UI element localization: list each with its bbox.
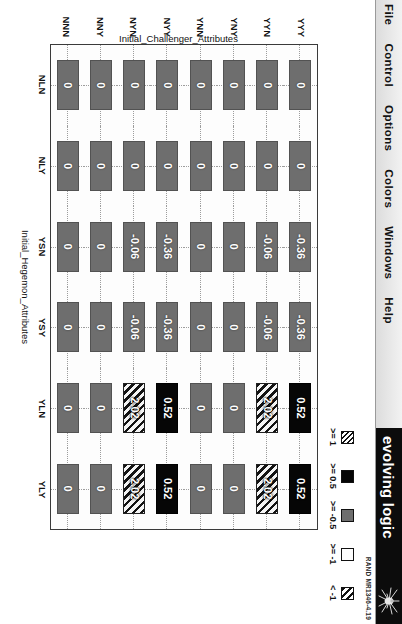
heatmap-cell[interactable]: -0.06	[118, 287, 151, 368]
heatmap-cell[interactable]: 0	[217, 45, 250, 126]
heatmap-cell-value: 0	[295, 163, 306, 169]
heatmap-cell[interactable]: 2.02	[251, 368, 284, 449]
menu-item-file[interactable]: File	[383, 0, 395, 34]
heatmap-cell[interactable]: 0	[84, 126, 117, 207]
heatmap-cell[interactable]: 2.02	[118, 448, 151, 529]
heatmap-cell[interactable]: 0	[217, 448, 250, 529]
heatmap-cell-box: 0	[57, 302, 79, 352]
heatmap-cell[interactable]: 0	[217, 287, 250, 368]
heatmap-cell[interactable]: 2.02	[118, 368, 151, 449]
heatmap-cell[interactable]: 0	[217, 368, 250, 449]
heatmap-cell-box: 0	[223, 383, 245, 433]
heatmap-cell-box: 0	[223, 141, 245, 191]
heatmap-cell-value: 0	[195, 486, 206, 492]
heatmap-plot-area[interactable]: 00-0.36-0.360.520.5200-0.06-0.062.022.02…	[50, 44, 318, 530]
heatmap-cell-box: 0	[190, 222, 212, 272]
heatmap-cell-box: 0	[90, 383, 112, 433]
heatmap-cell[interactable]: 0	[251, 126, 284, 207]
heatmap-cell[interactable]: -0.36	[284, 206, 317, 287]
heatmap-cell[interactable]: 0	[284, 126, 317, 207]
heatmap-cell-value: 0	[62, 163, 73, 169]
heatmap-cell[interactable]: 0	[84, 206, 117, 287]
heatmap-cell[interactable]: 0	[217, 126, 250, 207]
heatmap-cell[interactable]: 0	[151, 45, 184, 126]
heatmap-cell[interactable]: -0.36	[151, 206, 184, 287]
heatmap-cell-box: 2.02	[256, 383, 278, 433]
heatmap-cell[interactable]: 0	[51, 206, 84, 287]
screenshot-frame: File Control Options Colors Windows Help…	[0, 0, 402, 624]
menu-item-help[interactable]: Help	[383, 288, 395, 333]
application-window: File Control Options Colors Windows Help…	[0, 0, 402, 624]
heatmap-cell-value: 0	[228, 82, 239, 88]
heatmap-cell[interactable]: -0.06	[251, 287, 284, 368]
heatmap-cell-value: 0	[228, 324, 239, 330]
spider-logo-icon	[378, 586, 400, 616]
heatmap-cell[interactable]: 2.02	[251, 448, 284, 529]
heatmap-cell-box: -0.06	[256, 302, 278, 352]
heatmap-cell[interactable]: 0	[51, 368, 84, 449]
heatmap-cell[interactable]: 0	[217, 206, 250, 287]
heatmap-cell-box: 0	[57, 222, 79, 272]
heatmap-cell-box: -0.06	[256, 222, 278, 272]
heatmap-cell[interactable]: -0.36	[284, 287, 317, 368]
heatmap-cell-box: 0	[90, 60, 112, 110]
heatmap-cell-value: -0.36	[295, 234, 306, 259]
heatmap-cell[interactable]: 0	[84, 287, 117, 368]
menu-item-windows[interactable]: Windows	[383, 217, 395, 288]
x-axis-tick-label: YSN	[32, 206, 48, 287]
heatmap-cell-box: 0	[190, 302, 212, 352]
menu-item-options[interactable]: Options	[383, 96, 395, 160]
heatmap-cell-box: 0.52	[156, 464, 178, 514]
heatmap-cell[interactable]: 0	[284, 45, 317, 126]
heatmap-cell-value: 2.02	[262, 478, 273, 499]
menu-item-colors[interactable]: Colors	[383, 160, 395, 217]
heatmap-cell[interactable]: 0	[184, 287, 217, 368]
menu-item-control[interactable]: Control	[383, 34, 395, 96]
heatmap-cell-value: -0.06	[129, 234, 140, 259]
heatmap-cell[interactable]: 0	[151, 126, 184, 207]
legend-label: >= 1	[328, 428, 338, 446]
heatmap-cell[interactable]: 0	[184, 45, 217, 126]
heatmap-cell-box: 2.02	[123, 383, 145, 433]
heatmap-cell[interactable]: 0	[118, 126, 151, 207]
heatmap-cell-value: 0	[62, 244, 73, 250]
heatmap-cell-box: 0	[90, 141, 112, 191]
heatmap-cell-value: 0	[162, 82, 173, 88]
x-axis-tick-label: YLN	[32, 368, 48, 449]
heatmap-cell[interactable]: 0	[51, 287, 84, 368]
heatmap-cell-box: 0	[256, 60, 278, 110]
heatmap-cell-value: 0.52	[162, 478, 173, 499]
heatmap-cell[interactable]: -0.06	[118, 206, 151, 287]
heatmap-cell[interactable]: 0	[118, 45, 151, 126]
heatmap-cell[interactable]: 0.52	[151, 448, 184, 529]
x-axis-tick-label: YLY	[32, 449, 48, 530]
heatmap-cell[interactable]: 0.52	[151, 368, 184, 449]
heatmap-cell-value: 0	[195, 82, 206, 88]
legend-label: < -1	[328, 585, 338, 601]
heatmap-cell-value: -0.06	[129, 315, 140, 340]
heatmap-cell-value: 0	[62, 82, 73, 88]
heatmap-cell-value: 0	[95, 163, 106, 169]
heatmap-cell[interactable]: 0.52	[284, 448, 317, 529]
heatmap-cell-box: 0.52	[156, 383, 178, 433]
legend-swatch-icon	[341, 470, 354, 483]
heatmap-cell[interactable]: 0.52	[284, 368, 317, 449]
heatmap-cell-value: 0	[62, 405, 73, 411]
heatmap-cell[interactable]: 0	[84, 368, 117, 449]
heatmap-cell-value: 0.52	[295, 397, 306, 418]
heatmap-cell-value: -0.06	[262, 315, 273, 340]
heatmap-cell[interactable]: -0.06	[251, 206, 284, 287]
heatmap-cell[interactable]: -0.36	[151, 287, 184, 368]
heatmap-cell-box: 0	[223, 60, 245, 110]
heatmap-cell[interactable]: 0	[51, 45, 84, 126]
heatmap-cell[interactable]: 0	[184, 126, 217, 207]
heatmap-cell[interactable]: 0	[184, 368, 217, 449]
heatmap-cell-value: -0.06	[262, 234, 273, 259]
heatmap-cell[interactable]: 0	[184, 448, 217, 529]
heatmap-cell[interactable]: 0	[184, 206, 217, 287]
heatmap-cell[interactable]: 0	[84, 45, 117, 126]
heatmap-cell[interactable]: 0	[251, 45, 284, 126]
heatmap-cell[interactable]: 0	[51, 126, 84, 207]
heatmap-cell[interactable]: 0	[51, 448, 84, 529]
heatmap-cell[interactable]: 0	[84, 448, 117, 529]
